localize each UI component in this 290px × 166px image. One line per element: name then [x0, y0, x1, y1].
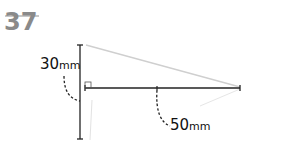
triangle-diagram — [0, 0, 290, 166]
faint-edge-right — [200, 89, 240, 106]
horizontal-length-value: 50 — [170, 116, 189, 134]
horizontal-length-label: 50mm — [170, 118, 211, 133]
vertical-length-unit: mm — [59, 59, 80, 72]
vertical-leader — [64, 76, 80, 101]
horizontal-leader — [157, 90, 170, 126]
vertical-length-value: 30 — [40, 55, 59, 73]
faint-edge-left — [90, 100, 92, 140]
hypotenuse-edge — [86, 45, 240, 87]
vertical-length-label: 30mm — [40, 57, 81, 72]
horizontal-length-unit: mm — [189, 120, 210, 133]
right-angle-marker — [85, 82, 91, 88]
